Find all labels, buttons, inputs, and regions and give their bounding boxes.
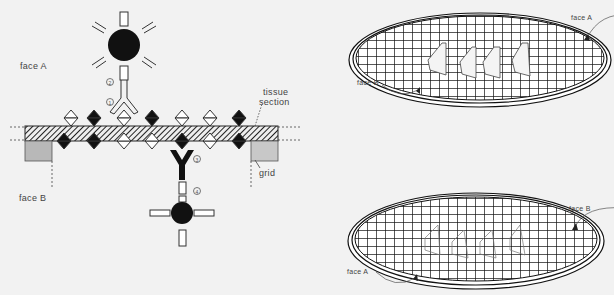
section-label: section (259, 97, 290, 107)
face-a-label: face A (20, 61, 47, 71)
svg-text:4: 4 (196, 189, 199, 195)
grid-top-drawing (340, 0, 614, 145)
secondary-antibody-icon (170, 150, 194, 194)
immunolabel-schematic: 2 1 (0, 0, 310, 295)
schematic-drawing: 2 1 (0, 0, 310, 295)
svg-text:3: 3 (196, 157, 199, 163)
face-b-label: face B (19, 193, 46, 203)
svg-text:1: 1 (109, 100, 112, 106)
face-b-label: face B (357, 79, 379, 86)
gold-particle-large-icon (92, 12, 156, 80)
face-a-label: face A (571, 14, 592, 21)
grid-label: grid (259, 168, 275, 178)
primary-antibody-icon (110, 80, 138, 114)
face-a-label: face A (347, 268, 368, 275)
grid-bar-right (251, 141, 278, 161)
grid-face-b-up: face B face A (340, 150, 614, 295)
grid-bar-left (25, 141, 52, 161)
face-b-label: face B (569, 205, 591, 212)
antigens-top (64, 110, 246, 126)
grid-bottom-drawing (340, 150, 614, 295)
grid-face-a-up: face A face B (340, 0, 614, 145)
tissue-label: tissue (263, 87, 288, 97)
svg-text:2: 2 (109, 80, 112, 86)
